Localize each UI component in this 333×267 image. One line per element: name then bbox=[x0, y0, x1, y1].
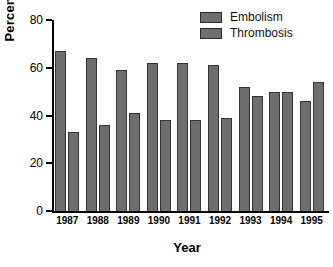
bar-thrombosis-1993 bbox=[252, 96, 263, 211]
bar-chart-figure: Embolism Thrombosis Percent 020406080 19… bbox=[0, 0, 333, 267]
y-tick-label: 80 bbox=[30, 14, 43, 26]
bar-thrombosis-1990 bbox=[160, 120, 171, 211]
bar-embolism-1995 bbox=[300, 101, 311, 211]
bar-group bbox=[116, 20, 140, 211]
bar-thrombosis-1992 bbox=[221, 118, 232, 211]
x-tick-label-1992: 1992 bbox=[205, 215, 235, 226]
bar-embolism-1988 bbox=[86, 58, 97, 211]
bar-thrombosis-1995 bbox=[313, 82, 324, 211]
bar-thrombosis-1994 bbox=[282, 92, 293, 211]
plot-area: 020406080 bbox=[52, 20, 327, 211]
x-axis-tick-labels: 198719881989199019911992199319941995 bbox=[52, 215, 327, 226]
bar-group bbox=[269, 20, 293, 211]
y-tick-label: 60 bbox=[30, 62, 43, 74]
x-tick-label-1994: 1994 bbox=[266, 215, 296, 226]
y-tick-label: 0 bbox=[36, 205, 43, 217]
bar-embolism-1990 bbox=[147, 63, 158, 211]
y-tick-label: 20 bbox=[30, 157, 43, 169]
bar-group bbox=[147, 20, 171, 211]
bar-groups bbox=[52, 20, 327, 211]
bar-group bbox=[177, 20, 201, 211]
bar-embolism-1987 bbox=[55, 51, 66, 211]
x-tick-label-1993: 1993 bbox=[236, 215, 266, 226]
bar-group bbox=[55, 20, 79, 211]
bar-thrombosis-1987 bbox=[68, 132, 79, 211]
x-tick-label-1995: 1995 bbox=[297, 215, 327, 226]
bar-group bbox=[300, 20, 324, 211]
bar-thrombosis-1989 bbox=[129, 113, 140, 211]
bar-embolism-1993 bbox=[239, 87, 250, 211]
y-axis-title: Percent bbox=[2, 0, 17, 72]
bar-embolism-1992 bbox=[208, 65, 219, 211]
x-tick-label-1987: 1987 bbox=[52, 215, 82, 226]
bar-thrombosis-1991 bbox=[190, 120, 201, 211]
bar-embolism-1991 bbox=[177, 63, 188, 211]
x-axis-title: Year bbox=[47, 240, 327, 255]
bar-group bbox=[239, 20, 263, 211]
x-tick-label-1988: 1988 bbox=[83, 215, 113, 226]
y-tick-label: 40 bbox=[30, 110, 43, 122]
x-tick-label-1989: 1989 bbox=[113, 215, 143, 226]
bar-thrombosis-1988 bbox=[99, 125, 110, 211]
x-axis-line bbox=[52, 211, 329, 213]
bar-embolism-1989 bbox=[116, 70, 127, 211]
bar-embolism-1994 bbox=[269, 92, 280, 211]
x-tick-label-1991: 1991 bbox=[174, 215, 204, 226]
x-tick-label-1990: 1990 bbox=[144, 215, 174, 226]
bar-group bbox=[208, 20, 232, 211]
bar-group bbox=[86, 20, 110, 211]
